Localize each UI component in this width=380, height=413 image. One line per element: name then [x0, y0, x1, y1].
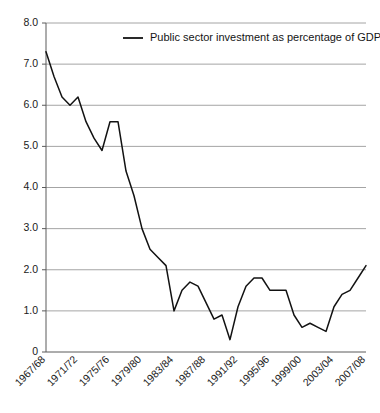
- y-axis-tick-label: 4.0: [23, 180, 38, 192]
- y-axis-tick-labels: 01.02.03.04.05.06.07.08.0: [23, 16, 38, 357]
- x-axis-tick-label: 1987/88: [172, 353, 207, 388]
- y-axis-tick-label: 2.0: [23, 263, 38, 275]
- x-axis-tick-label: 1983/84: [140, 353, 175, 388]
- chart-canvas: 01.02.03.04.05.06.07.08.0 1967/681971/72…: [0, 0, 380, 413]
- y-axis-tick-label: 1.0: [23, 304, 38, 316]
- x-axis-tick-label: 2007/08: [332, 353, 367, 388]
- data-series-line: [46, 52, 366, 340]
- x-axis-tick-label: 1999/00: [268, 353, 303, 388]
- y-axis-tick-label: 5.0: [23, 139, 38, 151]
- y-axis-tick-marks: [42, 23, 46, 352]
- x-axis-tick-label: 1971/72: [44, 353, 79, 388]
- y-axis-tick-label: 7.0: [23, 57, 38, 69]
- x-axis-tick-label: 1975/76: [76, 353, 111, 388]
- legend-entry-label: Public sector investment as percentage o…: [150, 31, 380, 43]
- gridlines: [46, 23, 366, 311]
- x-axis-tick-labels: 1967/681971/721975/761979/801983/841987/…: [12, 353, 367, 388]
- y-axis-tick-label: 8.0: [23, 16, 38, 28]
- x-axis-tick-label: 1979/80: [108, 353, 143, 388]
- y-axis-tick-label: 3.0: [23, 221, 38, 233]
- x-axis-tick-label: 2003/04: [300, 353, 335, 388]
- x-axis-tick-label: 1991/92: [204, 353, 239, 388]
- x-axis-tick-label: 1995/96: [236, 353, 271, 388]
- x-axis-tick-label: 1967/68: [12, 353, 47, 388]
- chart-legend: Public sector investment as percentage o…: [123, 31, 380, 43]
- public-sector-investment-chart: 01.02.03.04.05.06.07.08.0 1967/681971/72…: [0, 0, 380, 413]
- y-axis-tick-label: 6.0: [23, 98, 38, 110]
